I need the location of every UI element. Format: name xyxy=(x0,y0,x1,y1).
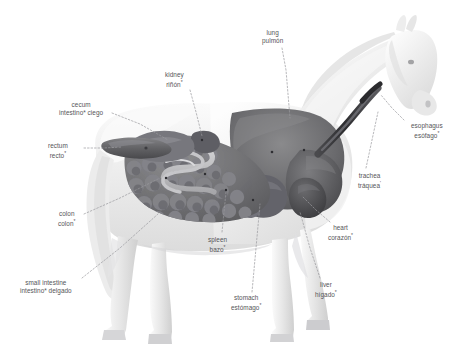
label-esophagus: esophagusesófago* xyxy=(411,122,443,139)
label-stomach-en: stomach xyxy=(231,294,261,302)
label-stomach: stomachestómago* xyxy=(231,294,261,311)
label-rectum-marker: * xyxy=(64,150,66,156)
label-esophagus-es: esófago* xyxy=(411,130,443,140)
label-trachea-en: trachea xyxy=(358,172,381,180)
label-liver: liverhígado* xyxy=(315,281,337,298)
leader-line-trachea xyxy=(366,112,378,168)
label-kidney-marker: * xyxy=(181,79,183,85)
label-stomach-marker: * xyxy=(259,302,261,308)
label-esophagus-en: esophagus xyxy=(411,122,443,130)
label-rectum-en: rectum xyxy=(48,142,68,150)
label-small-intestine-en: small intestine xyxy=(20,279,72,287)
label-kidney-es: riñón* xyxy=(165,79,184,89)
label-heart-en: heart xyxy=(328,224,353,232)
label-lung: lungpulmón xyxy=(262,29,283,44)
label-cecum: cecumintestino* ciego xyxy=(59,101,103,116)
label-trachea: tracheatráquea' xyxy=(358,172,381,189)
label-colon-en: colon xyxy=(58,210,76,218)
label-small-intestine-es: intestino* delgado xyxy=(20,287,72,295)
label-rectum-es: recto* xyxy=(48,150,68,160)
label-cecum-es: intestino* ciego xyxy=(59,109,103,117)
label-heart: heartcorazón* xyxy=(328,224,353,241)
label-small-intestine: small intestineintestino* delgado xyxy=(20,279,72,294)
label-trachea-es: tráquea' xyxy=(358,180,381,190)
label-spleen-en: spleen xyxy=(208,236,227,244)
label-kidney: kidneyriñón* xyxy=(165,71,184,88)
horse-anatomy-illustration xyxy=(0,0,459,355)
label-liver-es: hígado* xyxy=(315,289,337,299)
label-rectum: rectumrecto* xyxy=(48,142,68,159)
label-stomach-es: estómago* xyxy=(231,302,261,312)
label-colon-es: colon* xyxy=(58,218,76,228)
label-heart-es: corazón* xyxy=(328,232,353,242)
label-esophagus-marker: * xyxy=(437,130,439,136)
label-cecum-en: cecum xyxy=(59,101,103,109)
label-kidney-en: kidney xyxy=(165,71,184,79)
label-heart-marker: * xyxy=(351,232,353,238)
label-liver-en: liver xyxy=(315,281,337,289)
label-lung-es: pulmón xyxy=(262,37,283,45)
label-trachea-marker: ' xyxy=(380,180,381,186)
label-colon: coloncolon* xyxy=(58,210,76,227)
label-spleen-es: bazo* xyxy=(208,244,227,254)
label-spleen-marker: * xyxy=(224,244,226,250)
label-colon-marker: * xyxy=(74,218,76,224)
label-liver-marker: * xyxy=(335,289,337,295)
label-lung-en: lung xyxy=(262,29,283,37)
label-spleen: spleenbazo* xyxy=(208,236,227,253)
